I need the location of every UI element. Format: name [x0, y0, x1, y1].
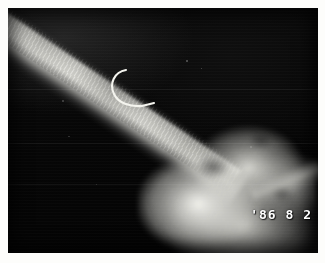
- radiograph-plate: '86 8 2: [8, 8, 318, 253]
- radiograph-page: '86 8 2: [0, 0, 325, 263]
- date-stamp: '86 8 2: [250, 208, 312, 221]
